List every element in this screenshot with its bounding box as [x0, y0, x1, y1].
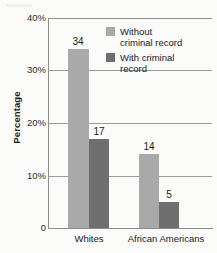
bar-value-african-americans-with-record: 5 [149, 189, 189, 200]
bar-whites-with-record [89, 139, 109, 228]
bar-value-whites-without-record: 34 [58, 36, 98, 47]
bar-chart-figure: 40% 30% 20% 10% 0 Percentage 34 17 14 5 … [0, 0, 217, 253]
legend-label-with-criminal-record: With criminal record [120, 52, 174, 74]
bar-value-whites-with-record: 17 [79, 126, 119, 137]
legend-item-without-criminal-record: Without criminal record [106, 26, 212, 48]
x-tick-african-americans: African Americans [118, 233, 214, 245]
legend-item-with-criminal-record: With criminal record [106, 52, 212, 74]
bar-african-americans-with-record [159, 202, 179, 228]
legend-swatch-dark-icon [106, 53, 115, 62]
legend: Without criminal record With criminal re… [106, 26, 212, 78]
bar-whites-without-record [68, 49, 89, 228]
x-tick-whites: Whites [58, 233, 120, 245]
x-axis-line [48, 228, 213, 229]
legend-label-without-criminal-record: Without criminal record [120, 26, 182, 48]
bar-value-african-americans-without-record: 14 [129, 141, 169, 152]
legend-swatch-light-icon [106, 27, 115, 36]
